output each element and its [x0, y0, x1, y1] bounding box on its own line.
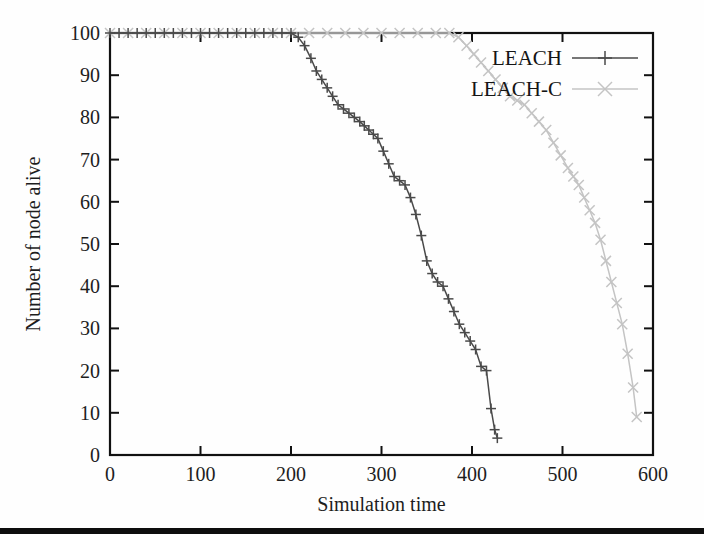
cross-marker-icon: [574, 180, 584, 190]
x-tick-label: 500: [548, 463, 578, 485]
plus-marker-icon: [168, 28, 178, 38]
y-tick-label: 100: [70, 22, 100, 44]
x-tick-label: 0: [105, 463, 115, 485]
figure-canvas: 0100200300400500600010203040506070809010…: [0, 0, 704, 540]
plus-marker-icon: [486, 404, 496, 414]
plus-marker-icon: [471, 345, 481, 355]
cross-marker-icon: [556, 150, 566, 160]
line-chart: 0100200300400500600010203040506070809010…: [0, 0, 704, 540]
cross-marker-icon: [606, 277, 616, 287]
plus-marker-icon: [411, 209, 421, 219]
plus-marker-icon: [422, 256, 432, 266]
y-tick-label: 0: [90, 444, 100, 466]
plus-marker-icon: [427, 269, 437, 279]
plus-marker-icon: [241, 28, 251, 38]
plus-marker-icon: [223, 28, 233, 38]
y-tick-label: 70: [80, 149, 100, 171]
cross-marker-icon: [612, 298, 622, 308]
bottom-rule-divider: [0, 528, 704, 534]
y-tick-label: 40: [80, 275, 100, 297]
plus-marker-icon: [598, 51, 612, 65]
cross-marker-icon: [590, 218, 600, 228]
plus-marker-icon: [306, 53, 316, 63]
series-markers-leach: [105, 28, 502, 443]
plus-marker-icon: [490, 425, 500, 435]
plus-marker-icon: [277, 28, 287, 38]
plus-marker-icon: [259, 28, 269, 38]
plus-marker-icon: [443, 294, 453, 304]
y-axis-title: Number of node alive: [22, 156, 44, 331]
plus-marker-icon: [460, 328, 470, 338]
cross-marker-icon: [476, 58, 486, 68]
y-tick-label: 10: [80, 402, 100, 424]
x-tick-label: 100: [186, 463, 216, 485]
plus-marker-icon: [492, 433, 502, 443]
x-tick-label: 300: [367, 463, 397, 485]
plus-marker-icon: [449, 307, 459, 317]
plus-marker-icon: [405, 193, 415, 203]
cross-marker-icon: [462, 41, 472, 51]
cross-marker-icon: [568, 171, 578, 181]
plus-marker-icon: [454, 319, 464, 329]
cross-marker-icon: [534, 117, 544, 127]
plus-marker-icon: [328, 91, 338, 101]
cross-marker-icon: [548, 138, 558, 148]
y-tick-label: 90: [80, 64, 100, 86]
plus-marker-icon: [186, 28, 196, 38]
plus-marker-icon: [378, 146, 388, 156]
x-tick-label: 400: [457, 463, 487, 485]
cross-marker-icon: [563, 163, 573, 173]
y-tick-label: 30: [80, 317, 100, 339]
y-tick-label: 20: [80, 360, 100, 382]
plus-marker-icon: [465, 336, 475, 346]
x-tick-label: 600: [638, 463, 668, 485]
cross-marker-icon: [585, 205, 595, 215]
cross-marker-icon: [469, 49, 479, 59]
y-tick-label: 80: [80, 106, 100, 128]
x-tick-label: 200: [276, 463, 306, 485]
cross-marker-icon: [527, 108, 537, 118]
cross-marker-icon: [541, 125, 551, 135]
legend-label-leach-c: LEACH-C: [471, 77, 562, 101]
plot-frame: [110, 33, 653, 455]
plus-marker-icon: [150, 28, 160, 38]
plus-marker-icon: [384, 159, 394, 169]
x-axis-title: Simulation time: [317, 493, 445, 515]
series-line-leach: [110, 33, 497, 438]
y-tick-label: 50: [80, 233, 100, 255]
plus-marker-icon: [322, 83, 332, 93]
cross-marker-icon: [596, 235, 606, 245]
plus-marker-icon: [317, 74, 327, 84]
plus-marker-icon: [205, 28, 215, 38]
plus-marker-icon: [114, 28, 124, 38]
cross-marker-icon: [601, 256, 611, 266]
plus-marker-icon: [132, 28, 142, 38]
plus-marker-icon: [311, 66, 321, 76]
legend-label-leach: LEACH: [492, 46, 562, 70]
cross-marker-icon: [579, 193, 589, 203]
plus-marker-icon: [416, 231, 426, 241]
y-tick-label: 60: [80, 191, 100, 213]
